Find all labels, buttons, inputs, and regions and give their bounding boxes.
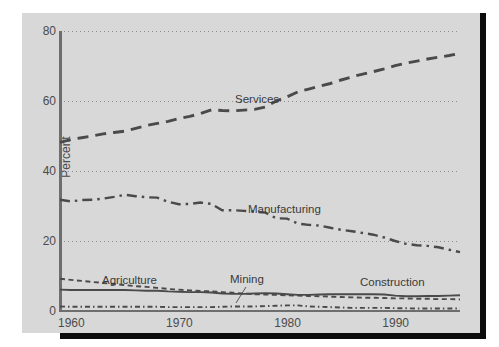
chart-figure: Percent 020406080 1960197019801990 Servi… bbox=[22, 13, 480, 333]
y-tick-label-40: 40 bbox=[43, 165, 56, 177]
chart-page: . . . . . . . . Percent 020406080 196019… bbox=[0, 0, 499, 347]
x-tick-label-1960: 1960 bbox=[58, 317, 85, 329]
y-tick-label-20: 20 bbox=[43, 235, 56, 247]
y-tick-label-0: 0 bbox=[49, 305, 56, 317]
y-tick-label-60: 60 bbox=[43, 95, 56, 107]
mining-leader-line bbox=[60, 31, 460, 311]
plot-area: Percent 020406080 1960197019801990 Servi… bbox=[60, 31, 460, 311]
x-tick-label-1980: 1980 bbox=[274, 317, 301, 329]
cut-off-caption-artifact: . . . . . . . . bbox=[22, 0, 322, 5]
x-tick-label-1970: 1970 bbox=[166, 317, 193, 329]
y-tick-label-80: 80 bbox=[43, 25, 56, 37]
x-tick-label-1990: 1990 bbox=[382, 317, 409, 329]
